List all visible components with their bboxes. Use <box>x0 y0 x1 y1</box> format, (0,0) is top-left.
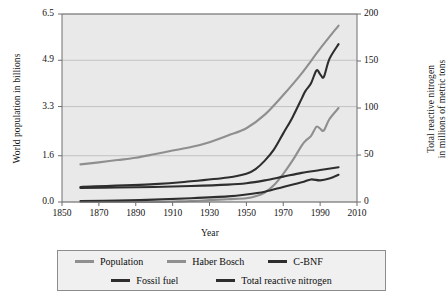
legend-swatch-icon <box>75 260 94 263</box>
legend-swatch-icon <box>111 279 130 282</box>
legend-swatch-icon <box>167 260 186 263</box>
legend-swatch-icon <box>268 260 287 263</box>
plot-background <box>62 14 357 202</box>
chart-legend: PopulationHaber BoschC-BNF Fossil fuelTo… <box>57 250 386 291</box>
legend-item[interactable]: Fossil fuel <box>111 275 178 286</box>
legend-label: Haber Bosch <box>192 256 244 267</box>
legend-item[interactable]: C-BNF <box>268 256 322 267</box>
legend-item[interactable]: Total reactive nitrogen <box>216 275 331 286</box>
legend-swatch-icon <box>216 279 235 282</box>
legend-row: Fossil fuelTotal reactive nitrogen <box>58 271 385 290</box>
legend-item[interactable]: Haber Bosch <box>167 256 244 267</box>
legend-label: Fossil fuel <box>136 275 178 286</box>
legend-row: PopulationHaber BoschC-BNF <box>58 252 402 271</box>
legend-label: Total reactive nitrogen <box>241 275 331 286</box>
legend-item[interactable]: Population <box>75 256 143 267</box>
legend-label: C-BNF <box>293 256 322 267</box>
legend-label: Population <box>100 256 143 267</box>
chart-figure: World population in billions Total react… <box>0 0 447 299</box>
